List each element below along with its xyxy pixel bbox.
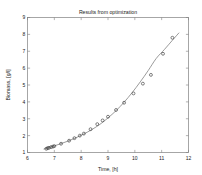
chart-title: Results from optimization (79, 9, 137, 15)
y-tick-label: 1 (23, 149, 26, 155)
data-point-marker (96, 123, 99, 126)
plot-frame (28, 18, 189, 153)
data-point-marker (171, 36, 174, 39)
y-tick-label: 8 (23, 31, 26, 37)
y-tick-label: 7 (23, 48, 26, 54)
x-tick-label: 10 (132, 155, 138, 161)
x-tick-label: 12 (186, 155, 192, 161)
fitted-curve (44, 33, 180, 149)
x-tick-label: 8 (80, 155, 83, 161)
y-axis-label: Biomass, [g/l] (5, 69, 11, 101)
optimization-results-chart: 6789101112123456789Results from optimiza… (0, 0, 202, 175)
y-tick-label: 9 (23, 14, 26, 20)
data-point-marker (101, 119, 104, 122)
data-point-marker (149, 73, 152, 76)
data-point-marker (162, 52, 165, 55)
data-point-marker (132, 92, 135, 95)
y-tick-label: 3 (23, 116, 26, 122)
data-point-marker (141, 82, 144, 85)
y-tick-label: 2 (23, 133, 26, 139)
y-tick-label: 4 (23, 99, 26, 105)
figure-canvas: 6789101112123456789Results from optimiza… (0, 0, 202, 175)
x-tick-label: 7 (53, 155, 56, 161)
x-tick-label: 9 (107, 155, 110, 161)
x-tick-label: 6 (26, 155, 29, 161)
x-tick-label: 11 (159, 155, 164, 161)
y-tick-label: 6 (23, 65, 26, 71)
x-axis-label: Time, [h] (98, 166, 119, 172)
y-tick-label: 5 (23, 82, 26, 88)
